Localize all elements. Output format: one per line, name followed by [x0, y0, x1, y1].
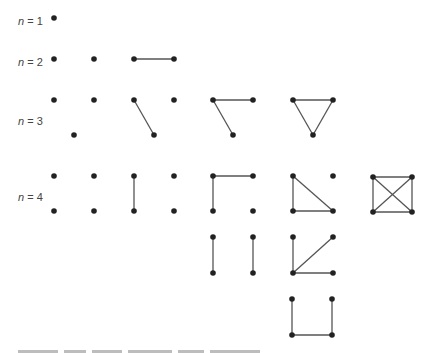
- vertex: [171, 208, 177, 214]
- graph-n4-8: [131, 173, 177, 214]
- vertex: [250, 208, 256, 214]
- edge: [213, 100, 233, 135]
- vertex: [330, 234, 336, 240]
- graph-n4-14: [289, 296, 335, 338]
- graph-n3-6: [290, 97, 336, 138]
- vertex: [91, 173, 97, 179]
- vertex: [290, 173, 296, 179]
- vertex: [131, 97, 137, 103]
- row-label-n2: n = 2: [18, 56, 43, 68]
- figure-caption-truncated: [18, 348, 278, 353]
- vertex: [210, 234, 216, 240]
- graph-n4-11: [370, 174, 415, 215]
- graph-n2-1: [51, 56, 97, 62]
- vertex: [131, 173, 137, 179]
- graph-diagram: [0, 0, 429, 353]
- graph-n4-7: [51, 173, 97, 214]
- vertex: [329, 296, 335, 302]
- graph-n1-0: [51, 15, 57, 21]
- vertex: [230, 132, 236, 138]
- vertex: [289, 332, 295, 338]
- vertex: [171, 56, 177, 62]
- vertex: [51, 173, 57, 179]
- graph-n4-10: [290, 173, 336, 214]
- vertex: [210, 208, 216, 214]
- vertex: [71, 132, 77, 138]
- vertex: [330, 173, 336, 179]
- vertex: [370, 174, 376, 180]
- vertex: [250, 234, 256, 240]
- vertex: [91, 97, 97, 103]
- vertex: [131, 56, 137, 62]
- edge: [313, 100, 333, 135]
- vertex: [250, 173, 256, 179]
- vertex: [210, 270, 216, 276]
- vertex: [290, 270, 296, 276]
- vertex: [290, 208, 296, 214]
- vertex: [51, 15, 57, 21]
- vertex: [51, 208, 57, 214]
- vertex: [151, 132, 157, 138]
- edge: [293, 100, 313, 135]
- vertex: [289, 296, 295, 302]
- graph-n3-4: [131, 97, 177, 138]
- edge: [293, 237, 333, 273]
- row-label-n3: n = 3: [18, 115, 43, 127]
- vertex: [250, 97, 256, 103]
- vertex: [91, 208, 97, 214]
- vertex: [210, 97, 216, 103]
- vertex: [131, 208, 137, 214]
- vertex: [51, 56, 57, 62]
- graph-n2-2: [131, 56, 177, 62]
- vertex: [51, 97, 57, 103]
- vertex: [171, 173, 177, 179]
- vertex: [330, 97, 336, 103]
- edge: [134, 100, 154, 135]
- vertex: [250, 270, 256, 276]
- graph-n4-12: [210, 234, 256, 276]
- graph-n3-3: [51, 97, 97, 138]
- vertex: [409, 209, 415, 215]
- row-label-n4: n = 4: [18, 191, 43, 203]
- vertex: [330, 208, 336, 214]
- vertex: [290, 97, 296, 103]
- vertex: [330, 270, 336, 276]
- graph-n4-13: [290, 234, 336, 276]
- vertex: [210, 173, 216, 179]
- vertex: [91, 56, 97, 62]
- graph-n3-5: [210, 97, 256, 138]
- vertex: [370, 209, 376, 215]
- vertex: [171, 97, 177, 103]
- edge: [293, 176, 333, 211]
- vertex: [310, 132, 316, 138]
- vertex: [290, 234, 296, 240]
- graph-n4-9: [210, 173, 256, 214]
- vertex: [409, 174, 415, 180]
- vertex: [329, 332, 335, 338]
- row-label-n1: n = 1: [18, 15, 43, 27]
